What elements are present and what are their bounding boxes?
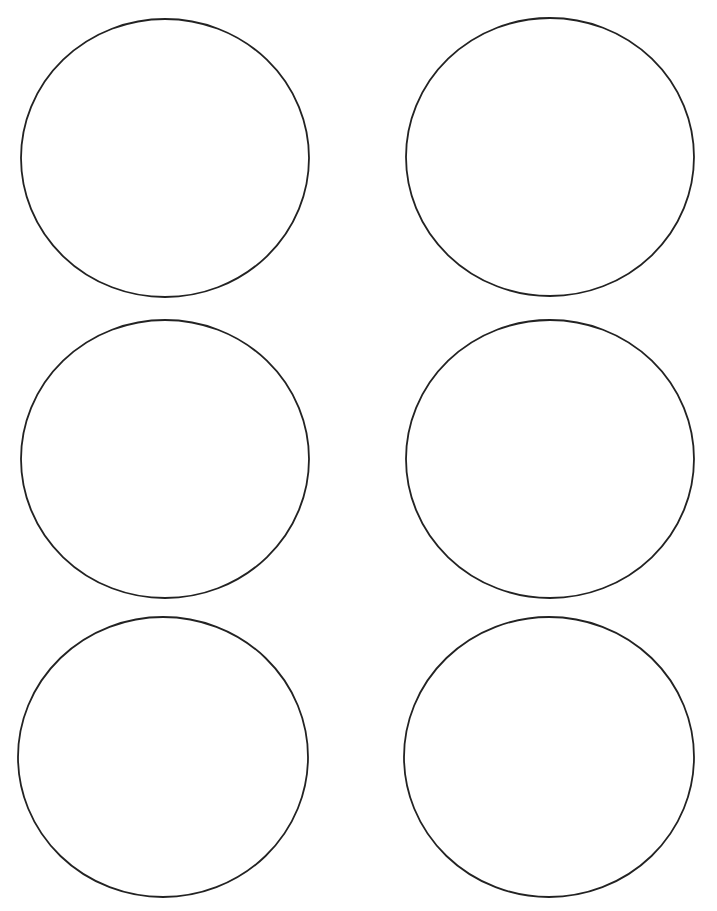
round-label-4 xyxy=(406,320,694,598)
round-label-3 xyxy=(21,320,309,598)
round-label-6 xyxy=(404,617,694,897)
round-label-2 xyxy=(406,18,694,296)
label-sheet xyxy=(0,0,717,911)
round-label-5 xyxy=(18,617,308,897)
round-label-1 xyxy=(21,19,309,297)
